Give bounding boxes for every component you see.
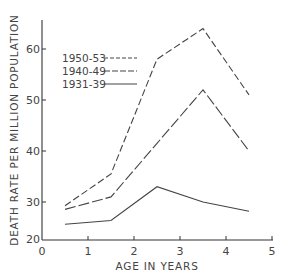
y-tick-label: 30 (26, 196, 40, 209)
x-tick-label: 0 (39, 245, 46, 258)
y-tick-label: 20 (26, 233, 40, 246)
y-axis-label: DEATH RATE PER MILLION POPULATION (8, 14, 20, 245)
series-line-1940-49 (65, 90, 249, 210)
line-chart: 012345 2030405060 AGE IN YEARS DEATH RAT… (0, 0, 284, 279)
y-tick-label: 60 (26, 43, 40, 56)
x-tick-label: 1 (85, 245, 92, 258)
x-ticks: 012345 (39, 236, 276, 258)
legend-label: 1931-39 (62, 78, 106, 90)
y-tick-label: 50 (26, 94, 40, 107)
y-ticks: 2030405060 (26, 43, 46, 246)
series-line-1931-39 (65, 187, 249, 225)
x-tick-label: 2 (131, 245, 138, 258)
x-tick-label: 4 (223, 245, 230, 258)
legend: 1950-531940-491931-39 (62, 52, 137, 90)
x-tick-label: 5 (269, 245, 276, 258)
x-axis-label: AGE IN YEARS (115, 260, 198, 272)
y-tick-label: 40 (26, 145, 40, 158)
x-tick-label: 3 (177, 245, 184, 258)
legend-label: 1950-53 (62, 52, 106, 64)
legend-label: 1940-49 (62, 65, 106, 77)
